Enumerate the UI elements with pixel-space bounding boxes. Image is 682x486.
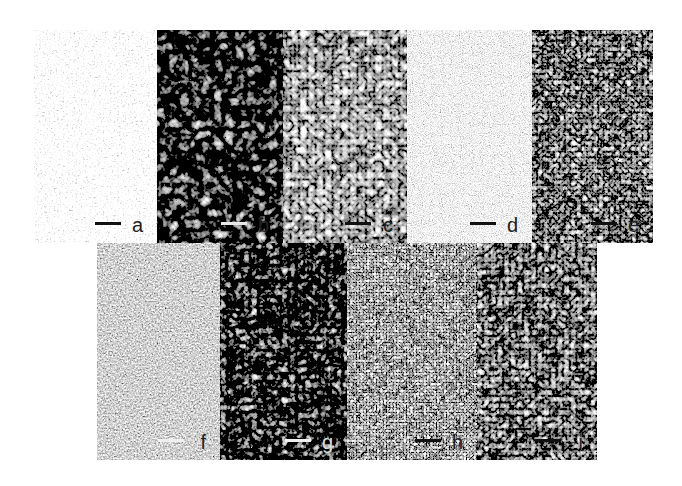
panel-f: f xyxy=(97,243,220,460)
panel-label: h xyxy=(452,432,463,452)
panel-label: a xyxy=(132,215,143,235)
panel-label: c xyxy=(383,215,393,235)
micrograph-texture xyxy=(283,30,407,243)
panel-g: g xyxy=(220,243,347,460)
panel-i: i xyxy=(477,243,597,460)
micrograph-texture xyxy=(157,30,283,243)
scale-bar xyxy=(535,439,561,442)
panel-c: c xyxy=(283,30,407,243)
micrograph-texture xyxy=(407,30,532,243)
panel-label: e xyxy=(628,215,639,235)
panel-d: d xyxy=(407,30,532,243)
micrograph-texture xyxy=(220,243,347,460)
scale-bar xyxy=(221,222,247,225)
scale-bar xyxy=(158,439,184,442)
micrograph-texture xyxy=(347,243,477,460)
scale-bar xyxy=(345,222,371,225)
panel-label: i xyxy=(579,432,583,452)
panel-label: f xyxy=(200,432,206,452)
scale-bar xyxy=(470,222,496,225)
micrograph-texture xyxy=(477,243,597,460)
panel-b: b xyxy=(157,30,283,243)
panel-label: g xyxy=(322,432,333,452)
micrograph-texture xyxy=(34,30,157,243)
panel-h: h xyxy=(347,243,477,460)
scale-bar xyxy=(95,222,121,225)
scale-bar xyxy=(415,439,441,442)
panel-e: e xyxy=(532,30,653,243)
panel-label: d xyxy=(507,215,518,235)
micrograph-texture xyxy=(532,30,653,243)
micrograph-texture xyxy=(97,243,220,460)
scale-bar xyxy=(591,222,617,225)
scale-bar xyxy=(285,439,311,442)
panel-label: b xyxy=(258,215,269,235)
micrograph-figure: abcdefghi xyxy=(0,0,682,486)
panel-a: a xyxy=(34,30,157,243)
